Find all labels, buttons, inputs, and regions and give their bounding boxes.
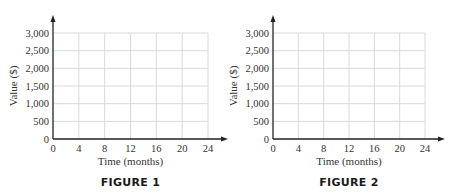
y-tick-label: 0 xyxy=(264,134,269,145)
x-tick-label: 20 xyxy=(394,143,405,154)
y-tick-label: 2,500 xyxy=(245,45,269,56)
figure-2-caption: FIGURE 2 xyxy=(319,176,378,189)
y-tick-label: 2,000 xyxy=(245,63,269,74)
y-tick-label: 1,000 xyxy=(245,98,269,109)
x-tick-label: 24 xyxy=(203,143,214,154)
x-tick-label: 8 xyxy=(321,143,326,154)
x-tick-label: 12 xyxy=(344,143,355,154)
figure-2-y-axis-label: Value ($) xyxy=(227,65,240,106)
figure-1-x-axis-label: Time (months) xyxy=(98,155,164,168)
figure-1-grid xyxy=(53,33,208,139)
y-tick-label: 2,500 xyxy=(25,45,49,56)
figure-2-y-tick-labels: 05001,0001,5002,0002,5003,000 xyxy=(245,28,269,145)
y-axis-arrowhead-icon xyxy=(51,15,56,22)
y-tick-label: 500 xyxy=(253,116,269,127)
y-axis-arrowhead-icon xyxy=(271,15,276,22)
x-tick-label: 4 xyxy=(296,143,302,154)
figure-2-x-axis-label: Time (months) xyxy=(316,155,382,168)
figure-2-chart: 05001,0001,5002,0002,5003,000 0481216202… xyxy=(227,15,445,189)
x-tick-label: 16 xyxy=(151,143,162,154)
figure-1-y-axis-label: Value ($) xyxy=(7,65,20,106)
figure-2-grid xyxy=(273,33,425,139)
figure-1-chart: 05001,0001,5002,0002,5003,000 0481216202… xyxy=(7,15,228,189)
figure-1-x-tick-labels: 04812162024 xyxy=(50,143,214,154)
y-tick-label: 0 xyxy=(44,134,49,145)
x-tick-label: 12 xyxy=(125,143,136,154)
x-axis-arrowhead-icon xyxy=(438,137,445,142)
y-tick-label: 1,000 xyxy=(25,98,49,109)
y-tick-label: 2,000 xyxy=(25,63,49,74)
y-tick-label: 3,000 xyxy=(25,28,49,39)
x-tick-label: 20 xyxy=(177,143,188,154)
y-tick-label: 1,500 xyxy=(245,81,269,92)
x-tick-label: 16 xyxy=(369,143,380,154)
figure-1-y-tick-labels: 05001,0001,5002,0002,5003,000 xyxy=(25,28,49,145)
figures-canvas: 05001,0001,5002,0002,5003,000 0481216202… xyxy=(0,0,457,193)
x-axis-arrowhead-icon xyxy=(221,137,228,142)
x-tick-label: 0 xyxy=(50,143,55,154)
figure-2-axes xyxy=(271,15,446,142)
x-tick-label: 8 xyxy=(102,143,107,154)
x-tick-label: 24 xyxy=(420,143,431,154)
y-tick-label: 3,000 xyxy=(245,28,269,39)
figure-1-caption: FIGURE 1 xyxy=(101,176,160,189)
y-tick-label: 1,500 xyxy=(25,81,49,92)
y-tick-label: 500 xyxy=(33,116,49,127)
figure-1-axes xyxy=(51,15,229,142)
figure-2-x-tick-labels: 04812162024 xyxy=(270,143,431,154)
x-tick-label: 0 xyxy=(270,143,275,154)
x-tick-label: 4 xyxy=(76,143,82,154)
